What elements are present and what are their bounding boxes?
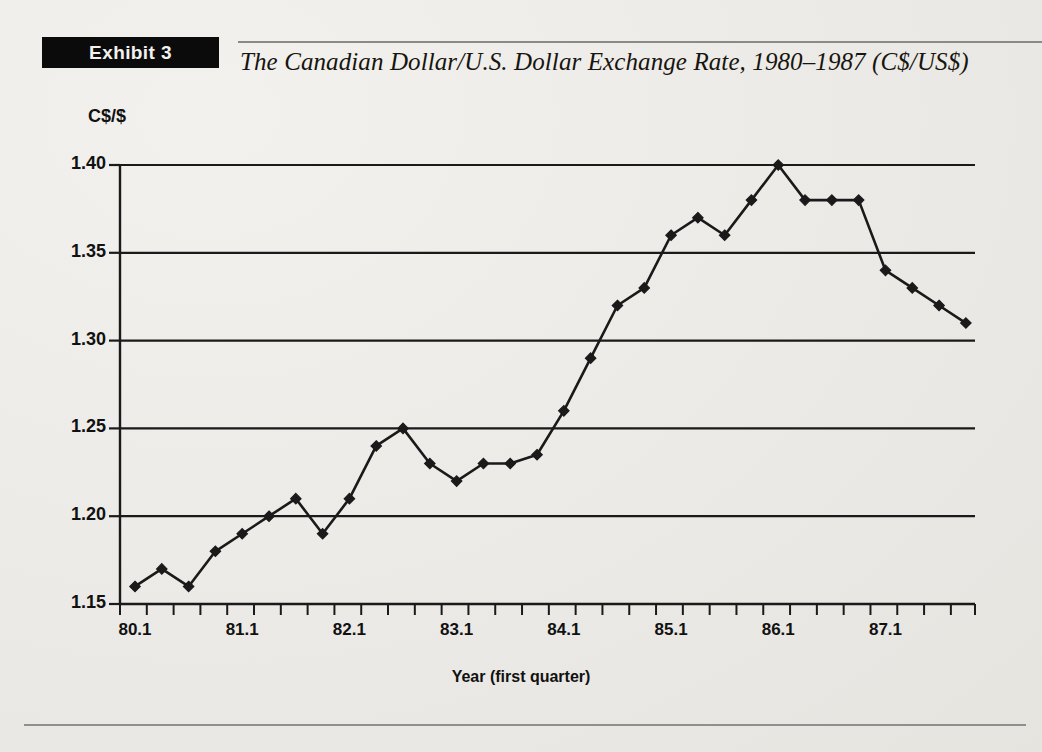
- gridlines: [120, 165, 975, 604]
- plot-area: [0, 0, 1042, 752]
- exchange-rate-line-chart: C$/$ Year (first quarter) 1.401.351.301.…: [0, 0, 1042, 752]
- exhibit-page: Exhibit 3 The Canadian Dollar/U.S. Dolla…: [0, 0, 1042, 752]
- series-line: [135, 165, 966, 586]
- footer-rule: [24, 724, 1026, 726]
- y-axis-ticks: [109, 165, 120, 604]
- axis-lines: [120, 165, 975, 604]
- x-axis-ticks: [120, 604, 975, 615]
- series-markers: [130, 160, 971, 592]
